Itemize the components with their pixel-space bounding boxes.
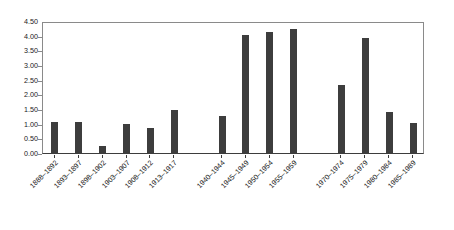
y-axis-tick-label: 3.00 [4, 62, 38, 70]
bar [386, 112, 393, 153]
y-axis-tick-label: 4.00 [4, 33, 38, 41]
y-axis-tick-label: 2.00 [4, 91, 38, 99]
x-axis-tick-mark [388, 155, 389, 158]
bar [75, 122, 82, 153]
x-axis-tick-mark [293, 155, 294, 158]
x-axis-tick-mark [126, 155, 127, 158]
x-axis-tick-mark [245, 155, 246, 158]
x-axis-tick-mark [102, 155, 103, 158]
x-axis-tick-mark [54, 155, 55, 158]
y-axis-tick-label: 0.00 [4, 150, 38, 158]
bar [51, 122, 58, 153]
y-axis-tick-label: 1.50 [4, 106, 38, 114]
x-axis-labels: 1888–18921893–18971898–19021903–19071908… [42, 155, 424, 230]
plot-area [42, 22, 424, 154]
x-axis-tick-mark [412, 155, 413, 158]
bars-layer [43, 23, 423, 153]
bar [410, 123, 417, 153]
bar [99, 146, 106, 153]
x-axis-tick-mark [221, 155, 222, 158]
x-axis-tick-mark [149, 155, 150, 158]
bar [147, 128, 154, 153]
x-axis-tick-mark [364, 155, 365, 158]
bar-chart: 4.504.003.503.002.502.001.501.000.500.00… [0, 0, 454, 230]
x-axis-tick-mark [173, 155, 174, 158]
x-axis-tick-mark [340, 155, 341, 158]
bar [338, 85, 345, 153]
bar [290, 29, 297, 153]
bar [219, 116, 226, 153]
y-axis-tick-label: 0.50 [4, 135, 38, 143]
bar [171, 110, 178, 153]
x-axis-tick-mark [78, 155, 79, 158]
bar [362, 38, 369, 153]
bar [123, 124, 130, 153]
bar [266, 32, 273, 153]
y-axis-tick-label: 2.50 [4, 77, 38, 85]
x-axis-tick-mark [269, 155, 270, 158]
y-axis-tick-label: 4.50 [4, 18, 38, 26]
y-axis-tick-label: 3.50 [4, 47, 38, 55]
y-axis-tick-label: 1.00 [4, 121, 38, 129]
bar [242, 35, 249, 153]
